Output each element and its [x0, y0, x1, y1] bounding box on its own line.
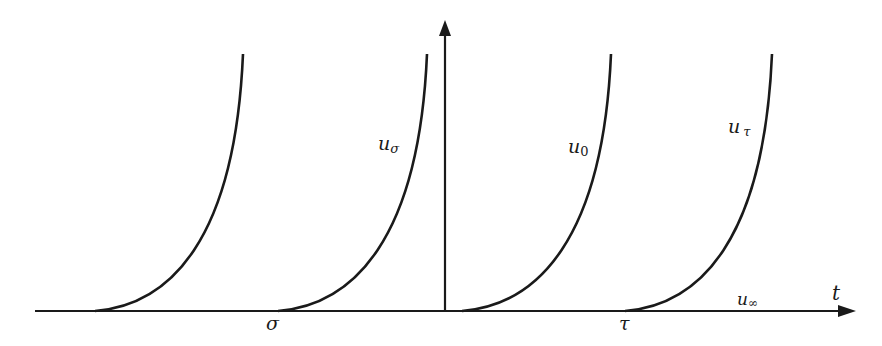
time-axis-arrowhead-icon	[838, 305, 856, 317]
label-u-tau: uτ	[728, 115, 751, 139]
curve-1	[95, 54, 243, 311]
label-u-infinity: u∞	[737, 289, 758, 310]
vertical-axis-arrowhead-icon	[439, 20, 451, 36]
axis-label-t: t	[832, 281, 841, 305]
curve-u-tau	[625, 54, 772, 311]
tick-label-sigma: σ	[266, 312, 280, 334]
diagram-canvas: uσ u0 uτ u∞ t σ τ	[0, 0, 882, 346]
label-u-sigma: uσ	[378, 132, 400, 156]
curve-u-sigma	[278, 54, 427, 311]
label-u-0: u0	[568, 135, 589, 159]
curve-u-0	[462, 54, 611, 311]
tick-label-tau: τ	[619, 312, 630, 334]
